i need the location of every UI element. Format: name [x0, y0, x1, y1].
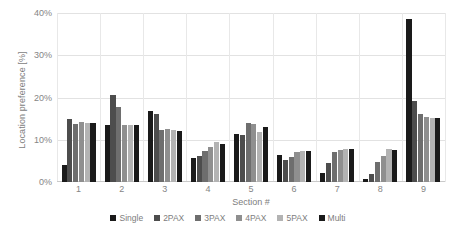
bar	[435, 118, 440, 182]
bar	[214, 142, 219, 182]
x-axis-tick-label: 4	[186, 184, 229, 194]
bar	[363, 179, 368, 182]
y-axis-tick-label: 20%	[22, 93, 52, 103]
bar	[392, 150, 397, 182]
legend-item[interactable]: 5PAX	[277, 213, 307, 223]
x-axis-tick-label: 9	[402, 184, 445, 194]
plot-area	[57, 13, 445, 182]
bar	[134, 125, 139, 182]
legend-label: 4PAX	[245, 213, 266, 223]
legend-swatch-icon	[195, 215, 201, 221]
bar	[116, 107, 121, 182]
x-axis-tick-label: 3	[143, 184, 186, 194]
bar	[320, 173, 325, 182]
bar	[240, 135, 245, 182]
x-axis-tick-label: 8	[359, 184, 402, 194]
bar-group	[402, 13, 445, 182]
x-axis-tick-label: 6	[273, 184, 316, 194]
bar	[406, 19, 411, 183]
bar	[375, 162, 380, 182]
bar	[246, 123, 251, 182]
bar	[234, 134, 239, 182]
legend-item[interactable]: 3PAX	[195, 213, 225, 223]
x-axis-tick-label: 2	[100, 184, 143, 194]
bar	[369, 174, 374, 182]
bar	[62, 165, 67, 182]
legend-label: Multi	[328, 213, 346, 223]
bar	[294, 152, 299, 182]
x-axis-title: Section #	[57, 197, 445, 207]
bar	[332, 152, 337, 182]
bar	[277, 155, 282, 182]
bar	[79, 122, 84, 182]
bar	[197, 156, 202, 182]
bar	[326, 163, 331, 182]
bar-group	[143, 13, 186, 182]
bar	[283, 160, 288, 182]
bar	[154, 114, 159, 182]
bar	[105, 125, 110, 182]
legend-swatch-icon	[236, 215, 242, 221]
bar-group	[229, 13, 272, 182]
bar	[263, 127, 268, 182]
legend-label: 2PAX	[163, 213, 184, 223]
bar	[257, 132, 262, 182]
legend: Single2PAX3PAX4PAX5PAXMulti	[0, 213, 456, 223]
bar	[67, 119, 72, 182]
bar-groups	[57, 13, 445, 182]
bar	[110, 95, 115, 182]
legend-swatch-icon	[110, 215, 116, 221]
bar	[418, 114, 423, 182]
bar	[208, 147, 213, 182]
bar	[85, 123, 90, 182]
bar-group	[186, 13, 229, 182]
bar	[306, 151, 311, 182]
bar	[251, 124, 256, 182]
bar	[177, 131, 182, 182]
bar	[159, 130, 164, 182]
y-axis-tick-label: 0%	[22, 177, 52, 187]
x-axis-tick-label: 5	[229, 184, 272, 194]
bar	[300, 151, 305, 182]
legend-label: Single	[119, 213, 143, 223]
bar	[122, 125, 127, 182]
bar	[148, 111, 153, 182]
x-axis-tick-labels: 123456789	[57, 184, 445, 194]
legend-swatch-icon	[277, 215, 283, 221]
bar	[430, 118, 435, 182]
bar-group	[359, 13, 402, 182]
bar	[338, 150, 343, 182]
y-axis-tick-label: 30%	[22, 50, 52, 60]
legend-label: 3PAX	[204, 213, 225, 223]
bar	[381, 156, 386, 182]
bar-chart: Location preference [%] 0%10%20%30%40% 1…	[0, 0, 456, 242]
legend-swatch-icon	[154, 215, 160, 221]
bar	[128, 125, 133, 182]
bar	[165, 129, 170, 182]
legend-item[interactable]: 2PAX	[154, 213, 184, 223]
x-axis-tick-label: 1	[57, 184, 100, 194]
bar-group	[100, 13, 143, 182]
bar	[424, 117, 429, 182]
bar-group	[57, 13, 100, 182]
legend-swatch-icon	[319, 215, 325, 221]
bar	[343, 149, 348, 182]
category-separator	[445, 13, 446, 182]
bar	[191, 158, 196, 182]
legend-item[interactable]: 4PAX	[236, 213, 266, 223]
bar	[349, 149, 354, 182]
legend-item[interactable]: Single	[110, 213, 143, 223]
bar	[386, 149, 391, 182]
legend-item[interactable]: Multi	[319, 213, 346, 223]
bar	[90, 123, 95, 182]
bar-group	[273, 13, 316, 182]
y-axis-tick-label: 10%	[22, 135, 52, 145]
y-axis-tick-label: 40%	[22, 8, 52, 18]
bar	[202, 151, 207, 182]
bar	[412, 101, 417, 182]
bar	[289, 157, 294, 182]
x-axis-tick-label: 7	[316, 184, 359, 194]
legend-label: 5PAX	[286, 213, 307, 223]
bar	[73, 124, 78, 182]
bar-group	[316, 13, 359, 182]
